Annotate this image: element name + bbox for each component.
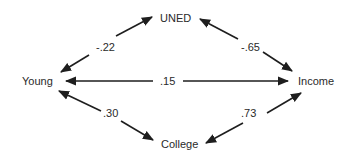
coef-young-uned: -.22 [96,42,115,53]
coef-college-income: .73 [241,108,256,119]
node-uned: UNED [160,13,191,24]
coef-uned-income: -.65 [241,42,260,53]
node-income: Income [298,76,334,87]
coef-young-income: .15 [160,76,175,87]
coef-young-college: .30 [103,108,118,119]
node-college: College [161,139,198,150]
node-young: Young [22,76,53,87]
